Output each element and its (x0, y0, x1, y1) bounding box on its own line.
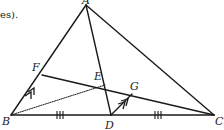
label-c: C (215, 115, 224, 128)
double-arrow-icon-dg (118, 99, 128, 109)
label-d: D (104, 119, 114, 130)
segment-be-dotted (11, 85, 105, 115)
label-g: G (130, 80, 139, 93)
segment-ac (86, 5, 214, 115)
segment-ad (86, 5, 111, 115)
label-a: A (81, 0, 90, 7)
label-b: B (1, 115, 10, 128)
segment-fc (42, 75, 214, 115)
label-f: F (31, 61, 40, 74)
segment-ab (11, 5, 86, 115)
label-e: E (93, 70, 102, 83)
triangle-diagram: A B C D E F G (0, 0, 224, 130)
segment-dg (111, 94, 132, 115)
